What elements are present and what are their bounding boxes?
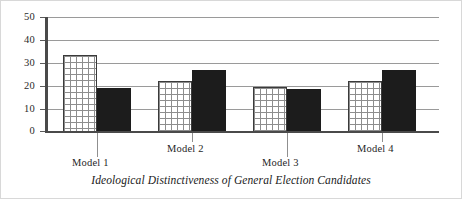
x-axis (45, 131, 439, 133)
xtick-mark-model-2 (192, 133, 193, 142)
xtick-mark-model-1 (97, 133, 98, 157)
bar-model-1-series-1 (63, 55, 97, 132)
xtick-mark-model-4 (382, 133, 383, 142)
bar-model-4-series-2 (382, 70, 416, 132)
bar-group-model-3 (253, 17, 325, 132)
ytick-label-0: 0 (7, 126, 35, 136)
bar-group-model-4 (348, 17, 420, 132)
bar-model-3-series-1 (253, 87, 287, 132)
ytick-mark-0 (40, 131, 45, 132)
bar-group-model-2 (158, 17, 230, 132)
ytick-label-10: 10 (7, 104, 35, 114)
ytick-mark-50 (40, 17, 45, 18)
xtick-mark-model-3 (287, 133, 288, 157)
bar-model-1-series-2 (97, 88, 131, 132)
plot-area (45, 17, 439, 132)
bar-model-2-series-2 (192, 70, 226, 132)
ytick-label-20: 20 (7, 81, 35, 91)
figure-container: 50 40 30 20 10 0 Model 1 Model 2 Model 3… (0, 0, 462, 199)
xtick-label-model-4: Model 4 (357, 143, 394, 155)
xtick-label-model-1: Model 1 (72, 157, 109, 169)
ytick-label-50: 50 (7, 12, 35, 22)
bar-model-3-series-2 (287, 89, 321, 132)
bar-model-2-series-1 (158, 81, 192, 132)
ytick-label-40: 40 (7, 35, 35, 45)
ytick-mark-20 (40, 86, 45, 87)
xtick-label-model-2: Model 2 (167, 143, 204, 155)
xtick-label-model-3: Model 3 (262, 157, 299, 169)
figure-caption: Ideological Distinctiveness of General E… (1, 173, 461, 187)
bar-model-4-series-1 (348, 81, 382, 132)
ytick-label-30: 30 (7, 58, 35, 68)
ytick-mark-10 (40, 109, 45, 110)
bar-group-model-1 (63, 17, 135, 132)
ytick-mark-30 (40, 63, 45, 64)
ytick-mark-40 (40, 40, 45, 41)
y-axis (45, 17, 48, 133)
